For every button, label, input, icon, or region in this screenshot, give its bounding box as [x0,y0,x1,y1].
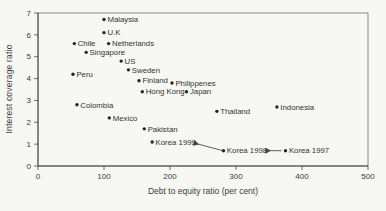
y-tick-label: 0 [27,162,32,171]
data-point [127,68,130,71]
scatter-chart: 012345670100200300400500MalaysiaU.KChile… [0,0,386,211]
data-point-label: Mexico [113,114,138,123]
y-tick-label: 1 [27,140,32,149]
y-tick-label: 7 [27,9,32,18]
data-point-label: Hong Kong [146,87,185,96]
data-point [119,59,122,62]
data-point-label: Korea 1997 [289,146,329,155]
data-point [102,18,105,21]
y-tick-label: 3 [27,96,32,105]
data-point-label: Korea 1999 [156,138,196,147]
y-tick-label: 5 [27,52,32,61]
x-tick-label: 200 [163,172,177,181]
data-point [73,42,76,45]
y-tick-label: 2 [27,118,32,127]
x-tick-label: 300 [229,172,243,181]
data-point-label: Korea 1998 [227,146,267,155]
data-point-label: Pakistan [148,125,178,134]
x-tick-label: 100 [97,172,111,181]
x-tick-label: 0 [36,172,41,181]
data-point-label: Peru [76,70,92,79]
x-tick-label: 400 [295,172,309,181]
data-point-label: Colombia [80,101,114,110]
data-point [84,51,87,54]
y-tick-label: 6 [27,31,32,40]
data-point-label: Chile [78,39,96,48]
data-point [275,105,278,108]
x-tick-label: 500 [361,172,375,181]
data-point [137,79,140,82]
data-point-label: Thailand [220,107,250,116]
data-point-label: Finland [142,76,168,85]
data-point [75,103,78,106]
x-axis-title: Debt to equity ratio (per cent) [38,186,368,196]
data-point [141,90,144,93]
y-tick-label: 4 [27,74,32,83]
data-point-label: Malaysia [107,15,138,24]
data-point-label: Japan [190,87,211,96]
data-point-label: U.K [107,28,121,37]
data-point [150,140,153,143]
data-point [284,149,287,152]
data-point-label: Singapore [90,48,126,57]
y-axis-title: Interest coverage ratio [4,14,14,164]
data-point-label: Netherlands [112,39,154,48]
data-point [143,127,146,130]
data-point [185,90,188,93]
data-point [71,73,74,76]
data-point [215,110,218,113]
data-point-label: Philippenes [175,79,215,88]
arrow-korea-1998-to-1999 [198,144,222,151]
data-point [108,116,111,119]
data-point-label: Indonesia [280,103,314,112]
data-point-label: Sweden [132,66,160,75]
data-point [107,42,110,45]
data-point-label: US [125,57,136,66]
scatter-figure: 012345670100200300400500MalaysiaU.KChile… [0,0,386,211]
data-point [222,149,225,152]
data-point [170,81,173,84]
data-point [102,31,105,34]
